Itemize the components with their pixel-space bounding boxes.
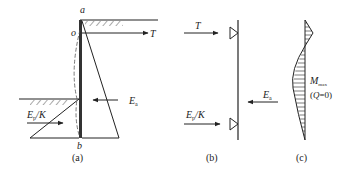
soil-hatch-excavation [30,100,68,105]
label-Q-condition: (Q=0) [310,90,332,100]
active-pressure-diagram [82,21,119,138]
caption-a: (a) [72,152,83,164]
panel-b: T Ea Ep/K (b) [184,20,278,164]
sheet-pile-wall [79,20,82,138]
label-EpK-b: Ep/K [185,109,206,121]
label-Ea-b: Ea [262,89,272,101]
support-lower [230,118,238,130]
label-a: a [80,4,85,15]
label-b: b [77,140,82,151]
panel-a: a o T Ea Ep/K b (a) [19,4,158,164]
label-EpK: Ep/K [26,109,47,121]
caption-b: (b) [206,152,218,164]
panel-c: Mmax (Q=0) (c) [293,20,333,164]
label-T: T [150,28,157,39]
label-Ea: Ea [128,95,138,107]
retaining-wall-diagram: a o T Ea Ep/K b (a) T Ea Ep/K (b) [0,0,348,177]
support-upper [230,27,238,39]
soil-hatch-top [85,21,123,26]
label-o: o [71,27,76,38]
caption-c: (c) [296,152,307,164]
label-T-b: T [195,20,202,31]
label-Mmax: Mmax [309,75,327,87]
